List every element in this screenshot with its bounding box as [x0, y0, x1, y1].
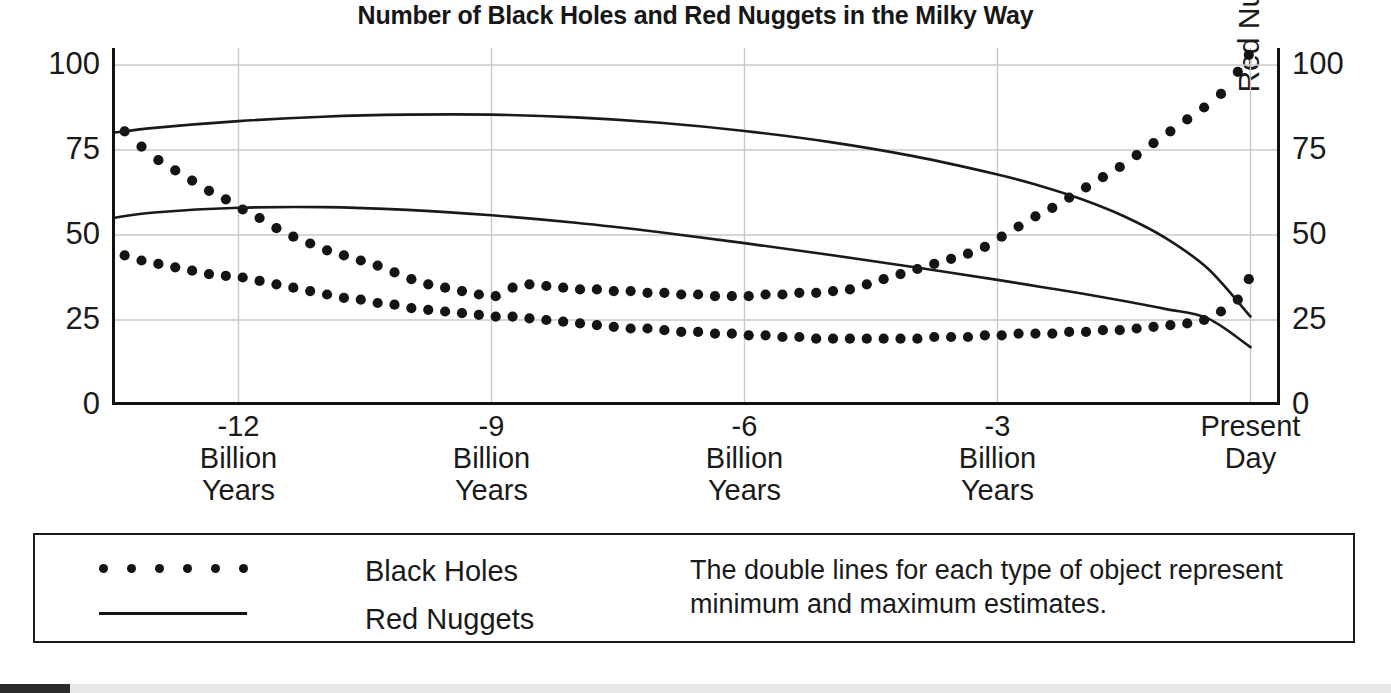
data-point — [254, 213, 264, 223]
data-point — [238, 204, 248, 214]
data-point — [609, 286, 619, 296]
data-point — [777, 289, 787, 299]
data-point — [659, 325, 669, 335]
y-tick-label-right: 75 — [1292, 133, 1382, 164]
y-tick-label-right: 50 — [1292, 218, 1382, 249]
legend-dot — [155, 564, 164, 573]
data-point — [1030, 329, 1040, 339]
series-dots — [120, 50, 1254, 302]
data-point — [356, 255, 366, 265]
x-axis-ticks: -12BillionYears-9BillionYears-6BillionYe… — [112, 410, 1280, 525]
data-point — [1081, 182, 1091, 192]
data-point — [457, 308, 467, 318]
data-point — [440, 283, 450, 293]
data-point — [1132, 323, 1142, 333]
legend-swatch-line — [99, 612, 247, 615]
x-tick-label-line: Billion — [644, 442, 844, 474]
y-tick-label-left: 100 — [10, 48, 100, 79]
data-point — [1165, 320, 1175, 330]
data-point — [1199, 102, 1209, 112]
data-point — [457, 286, 467, 296]
data-point — [406, 274, 416, 284]
data-point — [1165, 126, 1175, 136]
data-point — [811, 288, 821, 298]
data-point — [524, 313, 534, 323]
data-point — [727, 329, 737, 339]
data-point — [1244, 50, 1254, 60]
y-tick-label-left: 75 — [10, 133, 100, 164]
data-series-layer — [112, 50, 1254, 348]
data-point — [1216, 89, 1226, 99]
data-point — [929, 332, 939, 342]
data-point — [558, 317, 568, 327]
data-point — [760, 289, 770, 299]
data-point — [288, 232, 298, 242]
data-point — [1047, 203, 1057, 213]
x-tick-label-line: Years — [138, 474, 338, 506]
data-point — [120, 250, 130, 260]
data-point — [1216, 306, 1226, 316]
data-point — [744, 330, 754, 340]
legend-label-black-holes: Black Holes — [365, 555, 518, 588]
x-tick-label: -12BillionYears — [138, 410, 338, 506]
data-point — [254, 276, 264, 286]
data-point — [845, 334, 855, 344]
data-point — [1098, 172, 1108, 182]
data-point — [491, 291, 501, 301]
data-point — [423, 279, 433, 289]
data-point — [136, 255, 146, 265]
data-point — [356, 295, 366, 305]
legend-dot — [239, 564, 248, 573]
data-point — [609, 322, 619, 332]
data-point — [322, 245, 332, 255]
data-point — [828, 286, 838, 296]
data-point — [271, 279, 281, 289]
legend-dot — [99, 564, 108, 573]
data-point — [541, 315, 551, 325]
legend-note: The double lines for each type of object… — [690, 553, 1350, 621]
plot-area — [112, 48, 1280, 405]
data-point — [794, 332, 804, 342]
data-point — [170, 165, 180, 175]
series-dots — [120, 250, 1254, 344]
scrollbar-track[interactable] — [0, 684, 1391, 693]
scrollbar-thumb[interactable] — [0, 684, 70, 693]
data-point — [558, 283, 568, 293]
data-point — [1182, 318, 1192, 328]
data-point — [153, 155, 163, 165]
series-line — [112, 114, 1250, 316]
data-point — [1064, 327, 1074, 337]
data-point — [760, 330, 770, 340]
data-point — [474, 289, 484, 299]
x-tick-label-line: -3 — [897, 410, 1097, 442]
data-point — [153, 259, 163, 269]
data-point — [1013, 329, 1023, 339]
legend-dot — [211, 564, 220, 573]
gridlines — [112, 48, 1280, 405]
legend-label-red-nuggets: Red Nuggets — [365, 603, 534, 636]
x-tick-label-line: Years — [897, 474, 1097, 506]
data-point — [491, 312, 501, 322]
data-point — [507, 312, 517, 322]
data-point — [389, 300, 399, 310]
data-point — [373, 261, 383, 271]
data-point — [946, 332, 956, 342]
data-point — [187, 266, 197, 276]
data-point — [693, 327, 703, 337]
data-point — [389, 267, 399, 277]
data-point — [1013, 221, 1023, 231]
data-point — [170, 262, 180, 272]
data-point — [1115, 325, 1125, 335]
data-point — [1047, 329, 1057, 339]
data-point — [221, 194, 231, 204]
x-tick-label: PresentDay — [1150, 410, 1350, 474]
data-point — [238, 272, 248, 282]
data-point — [1030, 211, 1040, 221]
data-point — [592, 284, 602, 294]
data-point — [1132, 150, 1142, 160]
data-point — [1148, 138, 1158, 148]
data-point — [204, 186, 214, 196]
data-point — [879, 334, 889, 344]
data-point — [980, 242, 990, 252]
data-point — [541, 281, 551, 291]
